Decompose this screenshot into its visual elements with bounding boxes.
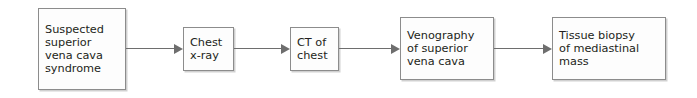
node-text-line: vena cava xyxy=(45,49,120,62)
flow-node-venography-of-superior-vena-cava[interactable]: Venography of superior vena cava xyxy=(400,17,494,80)
flow-node-ct-of-chest[interactable]: CT of chest xyxy=(290,27,339,71)
arrow-right-icon xyxy=(391,44,400,54)
node-text-line: chest xyxy=(297,49,333,62)
node-text-line: of mediastinal xyxy=(559,42,660,55)
arrow-shaft xyxy=(494,48,543,49)
node-text-line: Chest xyxy=(190,36,228,49)
arrow-suspected-to-chest-x-ray xyxy=(126,43,183,54)
arrow-chest-x-ray-to-ct xyxy=(234,43,290,54)
flow-node-chest-x-ray[interactable]: Chest x-ray xyxy=(183,27,234,71)
arrow-venography-to-biopsy xyxy=(494,43,552,54)
node-text-line: Tissue biopsy xyxy=(559,29,660,42)
node-text-line: of superior xyxy=(407,42,488,55)
flow-node-suspected-svc-syndrome[interactable]: Suspected superior vena cava syndrome xyxy=(38,8,126,90)
arrow-shaft xyxy=(339,48,391,49)
arrow-shaft xyxy=(234,48,281,49)
arrow-right-icon xyxy=(543,44,552,54)
node-text-line: Venography xyxy=(407,29,488,42)
flow-node-tissue-biopsy-of-mediastinal-mass[interactable]: Tissue biopsy of mediastinal mass xyxy=(552,17,666,80)
flowchart-canvas: Suspected superior vena cava syndrome Ch… xyxy=(0,0,697,98)
node-text-line: vena cava xyxy=(407,55,488,68)
node-text-line: Suspected xyxy=(45,23,120,36)
node-text-line: syndrome xyxy=(45,62,120,75)
arrow-ct-to-venography xyxy=(339,43,400,54)
node-text-line: x-ray xyxy=(190,49,228,62)
node-text-line: CT of xyxy=(297,36,333,49)
node-text-line: mass xyxy=(559,55,660,68)
arrow-right-icon xyxy=(174,44,183,54)
arrow-right-icon xyxy=(281,44,290,54)
arrow-shaft xyxy=(126,48,174,49)
node-text-line: superior xyxy=(45,36,120,49)
